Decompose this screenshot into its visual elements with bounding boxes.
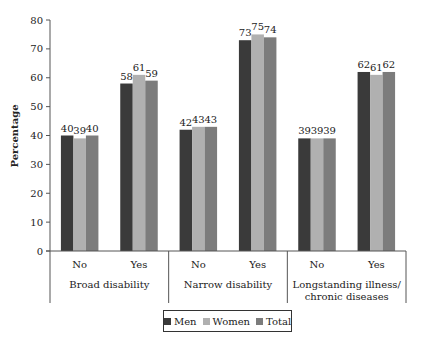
group-label: chronic diseases (305, 291, 389, 302)
legend-label: Men (174, 316, 197, 327)
y-axis-label: Percentage (9, 104, 20, 167)
bar-women (133, 75, 146, 251)
bar-chart: 01020304050607080 4039405861594243437375… (0, 0, 422, 343)
bar-total (264, 37, 277, 251)
legend-swatch (164, 318, 171, 325)
category-label: Yes (367, 259, 385, 270)
bar-women (73, 138, 86, 251)
legend-label: Total (266, 316, 291, 327)
bar-women (311, 138, 324, 251)
value-label: 39 (323, 125, 336, 136)
y-tick-label: 70 (30, 43, 43, 54)
legend-item-total: Total (256, 316, 291, 327)
value-label: 39 (73, 125, 86, 136)
value-label: 39 (311, 125, 324, 136)
y-tick-label: 80 (30, 15, 43, 26)
bar-women (192, 127, 205, 251)
value-label: 74 (264, 24, 277, 35)
value-label: 59 (145, 68, 158, 79)
bar-men (358, 72, 371, 251)
y-tick-label: 40 (30, 130, 43, 141)
bar-men (180, 130, 193, 251)
legend-swatch (256, 318, 263, 325)
bar-men (61, 136, 74, 252)
legend-label: Women (213, 316, 250, 327)
legend-item-men: Men (164, 316, 197, 327)
bar-men (120, 84, 133, 251)
legend: MenWomenTotal (163, 310, 292, 332)
y-tick-label: 0 (37, 246, 43, 257)
y-tick-label: 60 (30, 72, 43, 83)
value-label: 40 (61, 123, 74, 134)
y-tick-label: 50 (30, 101, 43, 112)
value-label: 40 (86, 123, 99, 134)
value-label: 61 (133, 62, 146, 73)
value-label: 75 (251, 21, 264, 32)
category-label: No (72, 259, 87, 270)
group-label: Broad disability (69, 279, 149, 290)
x-axis: NoYesBroad disabilityNoYesNarrow disabil… (46, 251, 406, 303)
value-label: 62 (357, 59, 370, 70)
value-label: 62 (382, 59, 395, 70)
value-label: 58 (120, 71, 133, 82)
bar-men (239, 40, 252, 251)
category-label: No (310, 259, 325, 270)
bar-total (205, 127, 218, 251)
value-label: 61 (370, 62, 383, 73)
value-label: 43 (204, 114, 217, 125)
value-label: 73 (239, 27, 252, 38)
category-label: No (191, 259, 206, 270)
category-label: Yes (248, 259, 266, 270)
bar-total (383, 72, 396, 251)
bar-total (323, 138, 336, 251)
y-tick-label: 30 (30, 159, 43, 170)
group-label: Longstanding illness/ (293, 279, 402, 290)
bar-total (86, 136, 99, 252)
y-axis: 01020304050607080 (30, 15, 50, 257)
bar-men (298, 138, 311, 251)
bar-total (145, 81, 158, 251)
value-label: 43 (192, 114, 205, 125)
category-label: Yes (130, 259, 148, 270)
group-label: Narrow disability (184, 279, 273, 290)
legend-swatch (203, 318, 210, 325)
legend-item-women: Women (203, 316, 250, 327)
value-label: 42 (179, 117, 192, 128)
bars: 403940586159424343737574393939626162 (61, 21, 395, 251)
bar-women (251, 34, 264, 251)
y-tick-label: 20 (30, 188, 43, 199)
value-label: 39 (298, 125, 311, 136)
y-tick-label: 10 (30, 217, 43, 228)
bar-women (370, 75, 383, 251)
